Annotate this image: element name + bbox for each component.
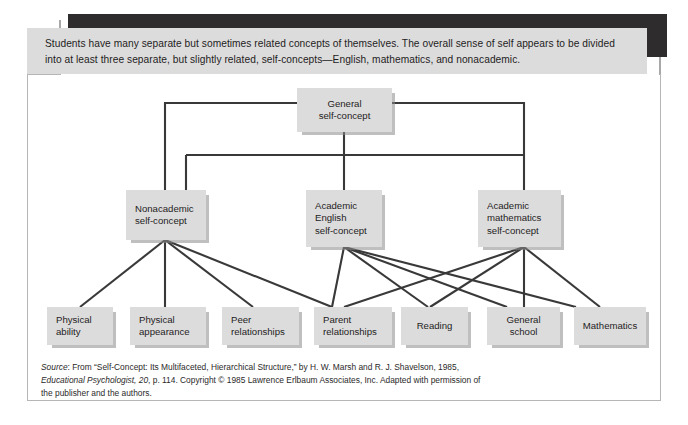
node-peer-relationships[interactable]: Peer relationships (222, 307, 299, 345)
figure-caption: Students have many separate but sometime… (27, 28, 647, 74)
node-physical-ability-line-2: ability (56, 326, 108, 338)
node-parent-relationships-line-1: Parent (323, 314, 387, 326)
node-academic-math-line-3: self-concept (487, 225, 556, 237)
node-parent-relationships-line-2: relationships (323, 326, 387, 338)
source-line-1-rest: : From “Self-Concept: Its Multifaceted, … (68, 362, 459, 372)
source-line-2-rest: , p. 114. Copyright © 1985 Lawrence Erlb… (148, 375, 480, 385)
caption-text: Students have many separate but sometime… (45, 36, 629, 67)
node-academic-english-line-2: English (315, 212, 377, 224)
node-general-school-line-1: General (506, 314, 540, 326)
node-academic-math-line-1: Academic (487, 200, 556, 212)
node-mathematics[interactable]: Mathematics (574, 307, 646, 345)
node-physical-ability[interactable]: Physical ability (47, 307, 113, 345)
figure-container: Students have many separate but sometime… (0, 0, 688, 425)
source-journal: Educational Psychologist, 20 (41, 375, 148, 385)
source-citation: Source: From “Self-Concept: Its Multifac… (41, 361, 617, 401)
node-peer-relationships-line-1: Peer (231, 314, 294, 326)
node-academic-mathematics-self-concept[interactable]: Academic mathematics self-concept (478, 190, 561, 247)
node-academic-math-line-2: mathematics (487, 212, 556, 224)
node-general-school-line-2: school (510, 326, 538, 338)
node-nonacademic-self-concept[interactable]: Nonacademic self-concept (126, 190, 206, 240)
node-physical-appearance-line-1: Physical (139, 314, 201, 326)
node-reading[interactable]: Reading (401, 307, 468, 345)
source-line-2: Educational Psychologist, 20, p. 114. Co… (41, 374, 617, 387)
node-mathematics-line-1: Mathematics (583, 320, 637, 332)
node-reading-line-1: Reading (417, 320, 453, 332)
node-physical-appearance-line-2: appearance (139, 326, 201, 338)
node-physical-ability-line-1: Physical (56, 314, 108, 326)
node-nonacademic-line-1: Nonacademic (135, 203, 201, 215)
node-parent-relationships[interactable]: Parent relationships (314, 307, 392, 345)
source-label: Source (41, 362, 68, 372)
node-general-school[interactable]: General school (487, 307, 560, 345)
node-academic-english-line-1: Academic (315, 200, 377, 212)
source-line-3: the publisher and the authors. (41, 387, 617, 400)
node-academic-english-self-concept[interactable]: Academic English self-concept (306, 190, 382, 247)
node-peer-relationships-line-2: relationships (231, 326, 294, 338)
node-nonacademic-line-2: self-concept (135, 215, 201, 227)
source-line-1: Source: From “Self-Concept: Its Multifac… (41, 361, 617, 374)
node-general-self-concept[interactable]: General self-concept (297, 88, 392, 132)
header-dark-bar-right (645, 14, 667, 57)
frame-right-rule (659, 57, 661, 75)
node-general-line-2: self-concept (319, 110, 371, 122)
node-general-line-1: General (327, 98, 361, 110)
node-physical-appearance[interactable]: Physical appearance (130, 307, 206, 345)
node-academic-english-line-3: self-concept (315, 225, 377, 237)
